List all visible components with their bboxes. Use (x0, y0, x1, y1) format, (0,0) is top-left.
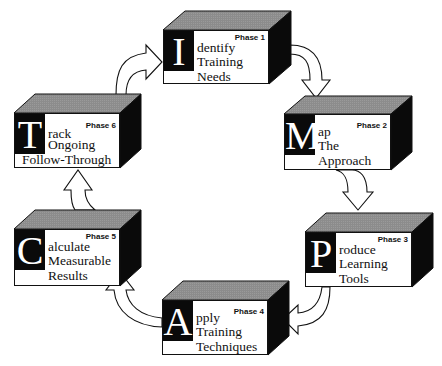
phase-initial-letter: I (164, 31, 194, 71)
phase-title-line-2: Ongoing (48, 137, 95, 152)
phase-title-line-2: Training (196, 324, 242, 339)
phase-label: Phase 4 (234, 307, 264, 316)
phase-label: Phase 6 (86, 121, 116, 130)
arrow-phase5-to-phase6 (64, 170, 95, 210)
phase-label: Phase 3 (378, 235, 408, 244)
phase-title-line-2: Learning (339, 256, 388, 271)
phase-initial-letter: C (15, 230, 45, 270)
phase-label: Phase 5 (86, 232, 116, 241)
box-front-face: M Phase 2 ap The Approach (284, 114, 391, 170)
arrow-phase1-to-phase2 (290, 45, 330, 98)
phase-title-line-2: Measurable (48, 253, 111, 268)
box-front-face: I Phase 1 dentify Training Needs (163, 30, 269, 84)
phase-label: Phase 1 (235, 33, 265, 42)
phase-title-line-1: dentify (197, 40, 235, 55)
phase-title-line-3: Needs (197, 69, 231, 84)
phase-initial-letter: M (285, 115, 315, 155)
phase-title-line-2: The (318, 138, 339, 153)
phase-title-line-1: ap (318, 124, 331, 139)
phase-title-line-3: Results (48, 268, 88, 283)
phase-title-line-1: pply (196, 310, 220, 325)
phase-box-4: A Phase 4 pply Training Techniques (160, 279, 291, 357)
phase-title-line-3: Tools (339, 271, 369, 286)
phase-box-3: P Phase 3 roduce Learning Tools (303, 211, 435, 289)
phase-title-line-1: alculate (48, 239, 90, 254)
phase-initial-letter: A (163, 301, 193, 341)
phase-title-line-3: Techniques (196, 339, 257, 354)
phase-initial-letter: T (15, 114, 45, 154)
phase-box-2: M Phase 2 ap The Approach (282, 94, 414, 172)
phase-title-line-3: Approach (318, 153, 371, 168)
phase-box-6: T Phase 6 rack Ongoing Follow-Through (12, 92, 143, 170)
phase-title-line-3: Follow-Through (22, 152, 111, 167)
phase-label: Phase 2 (357, 121, 387, 130)
arrow-phase2-to-phase3 (336, 170, 373, 210)
phase-title-line-2: Training (197, 54, 243, 69)
phase-initial-letter: P (306, 233, 336, 273)
box-front-face: A Phase 4 pply Training Techniques (162, 300, 268, 355)
phase-title-line-1: roduce (339, 242, 376, 257)
phase-box-1: I Phase 1 dentify Training Needs (161, 9, 293, 86)
box-front-face: C Phase 5 alculate Measurable Results (14, 229, 120, 286)
impact-cycle-diagram: I Phase 1 dentify Training Needs M Phase… (0, 0, 442, 366)
box-front-face: P Phase 3 roduce Learning Tools (305, 232, 412, 287)
arrow-phase6-to-phase1 (116, 45, 162, 95)
box-front-face: T Phase 6 rack Ongoing Follow-Through (14, 113, 120, 168)
phase-box-5: C Phase 5 alculate Measurable Results (12, 208, 143, 288)
